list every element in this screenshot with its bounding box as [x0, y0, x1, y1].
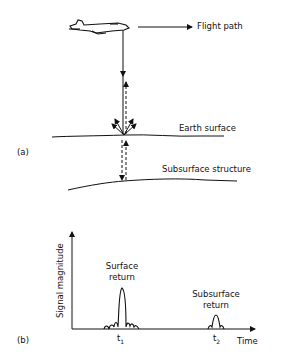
x-axis-label: Time	[237, 337, 258, 346]
subsurface-return-pulse	[208, 315, 224, 329]
subsurface-return-line1: Subsurface	[186, 290, 246, 299]
surface-return-line2: return	[98, 273, 146, 282]
earth-surface-label: Earth surface	[179, 124, 236, 133]
surface-return-pulse	[104, 288, 139, 329]
panel-a-tag: (a)	[17, 148, 29, 157]
radar-sounding-diagram	[0, 0, 284, 364]
scatter-arrows	[112, 119, 136, 135]
subsurface-structure-line	[68, 179, 237, 190]
surface-return-line1: Surface	[98, 262, 146, 271]
subsurface-structure-label: Subsurface structure	[162, 165, 251, 174]
panel-b-tag: (b)	[17, 336, 29, 345]
flight-path-label: Flight path	[197, 22, 243, 31]
subsurface-return-annotation: Subsurface return	[186, 290, 246, 309]
tick-t1: t1	[117, 334, 124, 345]
tick-t2: t2	[213, 334, 220, 345]
earth-surface-line	[52, 135, 224, 137]
surface-return-annotation: Surface return	[98, 262, 146, 281]
subsurface-return-line2: return	[186, 301, 246, 310]
y-axis-label: Signal magnitude	[56, 243, 65, 318]
airplane-icon	[69, 20, 129, 34]
